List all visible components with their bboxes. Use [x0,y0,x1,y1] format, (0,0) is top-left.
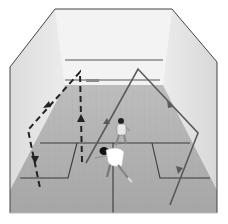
front-wall [55,9,172,85]
tin-board [86,79,99,82]
far-player-body [117,124,126,135]
far-player-head [118,118,124,124]
court-illustration [0,0,228,224]
squash-court-figure [0,0,228,224]
